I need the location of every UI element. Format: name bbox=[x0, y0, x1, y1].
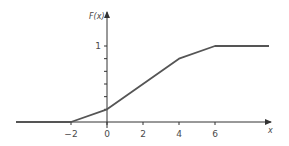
x-axis-label: x bbox=[267, 126, 273, 135]
y-tick-label: 1 bbox=[95, 41, 101, 51]
x-tick-label: 6 bbox=[212, 129, 218, 139]
x-tick-label: −2 bbox=[64, 129, 77, 139]
y-ticks: 1 bbox=[95, 41, 107, 109]
axes bbox=[16, 12, 271, 128]
cdf-chart: −20246 1 F(x) x bbox=[0, 0, 289, 146]
y-axis-label: F(x) bbox=[89, 12, 105, 21]
x-tick-label: 0 bbox=[104, 129, 110, 139]
cdf-line bbox=[16, 46, 269, 122]
x-tick-label: 4 bbox=[176, 129, 182, 139]
x-ticks: −20246 bbox=[64, 122, 218, 139]
x-tick-label: 2 bbox=[140, 129, 146, 139]
